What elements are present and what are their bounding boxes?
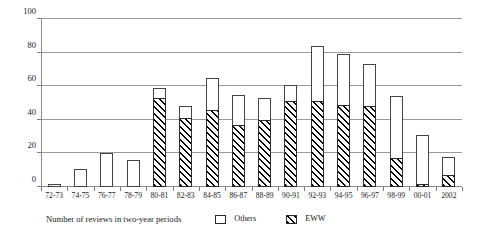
x-tick-mark (409, 187, 410, 191)
bar-segment-ewww (206, 110, 219, 187)
bar-segment-ewww (311, 101, 324, 187)
x-tick-mark (199, 187, 200, 191)
bar-group (284, 19, 297, 187)
x-tick-label-90-91: 90-91 (282, 192, 300, 200)
x-tick-mark (41, 187, 42, 191)
chart-legend: Number of reviews in two-year periods Ot… (46, 211, 446, 227)
y-tick-label-20: 20 (28, 141, 42, 150)
bar-segment-others (416, 135, 429, 187)
y-tick-label-60: 60 (28, 74, 42, 83)
legend-entry-others: Others (215, 215, 256, 224)
bar-group (390, 19, 403, 187)
bar-group (127, 19, 140, 187)
legend-swatch-ewww-icon (286, 215, 297, 224)
bar-segment-ewww (232, 125, 245, 187)
x-tick-mark (304, 187, 305, 191)
x-tick-label-92-93: 92-93 (308, 192, 326, 200)
bar-group (48, 19, 61, 187)
x-tick-label-74-75: 74-75 (72, 192, 90, 200)
legend-label-others: Others (234, 215, 256, 223)
x-tick-mark (120, 187, 121, 191)
x-tick-mark (383, 187, 384, 191)
x-tick-label-2002: 2002 (441, 192, 456, 200)
bar-segment-ewww (337, 105, 350, 187)
x-tick-label-96-97: 96-97 (361, 192, 379, 200)
bar-segment-ewww (390, 158, 403, 187)
bar-group (258, 19, 271, 187)
bar-group (206, 19, 219, 187)
legend-label-ewww: EWW (305, 215, 325, 223)
x-tick-label-72-73: 72-73 (45, 192, 63, 200)
bar-segment-ewww (284, 101, 297, 187)
x-tick-mark (225, 187, 226, 191)
x-tick-label-80-81: 80-81 (151, 192, 169, 200)
bar-group (363, 19, 376, 187)
bar-group (311, 19, 324, 187)
bar-segment-others (127, 160, 140, 187)
bar-chart-figure: 020406080100 72-7374-7576-7778-7980-8182… (0, 0, 485, 235)
x-tick-mark (357, 187, 358, 191)
bar-segment-ewww (258, 120, 271, 187)
bar-segment-ewww (153, 98, 166, 187)
x-tick-label-00-01: 00-01 (414, 192, 432, 200)
x-tick-label-94-95: 94-95 (335, 192, 353, 200)
bar-segment-others (100, 153, 113, 187)
x-tick-label-76-77: 76-77 (98, 192, 116, 200)
x-tick-label-82-83: 82-83 (177, 192, 195, 200)
plot-area: 020406080100 (41, 19, 462, 187)
legend-swatch-others-icon (215, 215, 226, 224)
x-axis: 72-7374-7576-7778-7980-8182-8384-8586-87… (41, 187, 462, 207)
x-tick-label-88-89: 88-89 (256, 192, 274, 200)
x-tick-mark (252, 187, 253, 191)
bar-group (153, 19, 166, 187)
bar-group (74, 19, 87, 187)
bar-series-container (41, 19, 462, 187)
x-tick-label-98-99: 98-99 (387, 192, 405, 200)
bar-segment-ewww (363, 106, 376, 187)
bar-group (337, 19, 350, 187)
bar-group (179, 19, 192, 187)
bar-segment-others (74, 169, 87, 187)
bar-group (442, 19, 455, 187)
bar-group (416, 19, 429, 187)
bar-group (100, 19, 113, 187)
y-tick-label-80: 80 (28, 40, 42, 49)
x-tick-mark (436, 187, 437, 191)
legend-caption: Number of reviews in two-year periods (46, 215, 181, 224)
x-tick-mark (94, 187, 95, 191)
x-tick-mark (67, 187, 68, 191)
y-tick-label-0: 0 (32, 175, 41, 184)
x-tick-mark (278, 187, 279, 191)
x-tick-label-78-79: 78-79 (124, 192, 142, 200)
x-tick-label-86-87: 86-87 (229, 192, 247, 200)
x-tick-mark (146, 187, 147, 191)
x-tick-mark (462, 187, 463, 191)
bar-segment-ewww (442, 175, 455, 187)
x-tick-label-84-85: 84-85 (203, 192, 221, 200)
x-tick-mark (330, 187, 331, 191)
x-tick-mark (173, 187, 174, 191)
y-tick-label-100: 100 (23, 7, 41, 16)
y-tick-label-40: 40 (28, 108, 42, 117)
bar-group (232, 19, 245, 187)
legend-entry-ewww: EWW (286, 215, 325, 224)
bar-segment-ewww (179, 118, 192, 187)
